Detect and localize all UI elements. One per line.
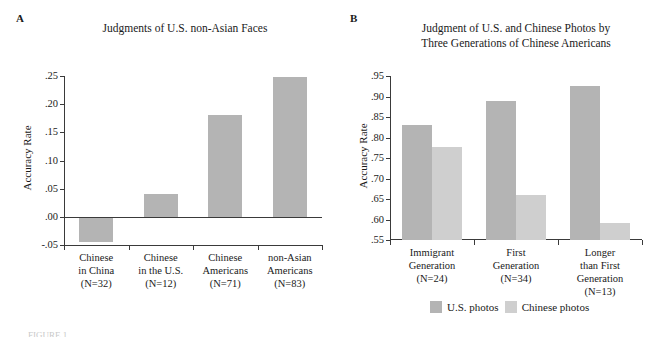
panel-b-bar [600,223,630,240]
legend-swatch-chinese-photos [505,301,517,313]
panel-b: B Judgment of U.S. and Chinese Photos by… [334,0,667,337]
panel-b-plot-area: .95.90.85.80.75.70.65.60.55 [390,76,642,240]
panel-a-x-axis-line [64,245,322,246]
panel-a-bars [64,76,322,245]
panel-b-x-tick-mark [558,240,559,245]
figure-footer-fragment: FIGURE 1 [28,330,67,337]
panel-b-bar [570,86,600,240]
panel-b-legend: U.S. photos Chinese photos [430,301,589,313]
legend-swatch-us-photos [430,301,442,313]
panel-b-y-axis-label: Accuracy Rate [357,111,369,201]
figure-two-panel-bar-charts: A Judgments of U.S. non-Asian Faces Accu… [0,0,667,337]
panel-a-bar [79,217,113,242]
panel-b-title: Judgment of U.S. and Chinese Photos by T… [376,21,656,51]
panel-a-letter: A [16,12,24,24]
panel-b-bar [486,101,516,240]
panel-b-x-category-label: First Generation (N=34) [468,246,564,285]
panel-a-bar [144,194,178,217]
panel-b-bar [516,195,546,240]
panel-b-bar [432,147,462,240]
panel-a-x-tick-mark [322,245,323,250]
legend-item-chinese-photos: Chinese photos [505,301,590,313]
legend-item-us-photos: U.S. photos [430,301,499,313]
panel-a: A Judgments of U.S. non-Asian Faces Accu… [0,0,334,337]
panel-b-bar [402,125,432,240]
panel-a-plot-area: .25.20.15.10.05.00-.05 [64,76,322,245]
panel-a-bar [208,115,242,216]
panel-a-bar [273,77,307,217]
panel-b-x-tick-mark [474,240,475,245]
panel-b-x-category-label: Immigrant Generation (N=24) [384,246,480,285]
panel-a-zero-baseline [64,217,322,218]
legend-label-us-photos: U.S. photos [447,301,499,313]
panel-b-bars [390,76,642,240]
legend-label-chinese-photos: Chinese photos [522,301,590,313]
panel-b-x-tick-mark [642,240,643,245]
panel-b-x-tick-mark [390,240,391,245]
panel-a-y-axis-label: Accuracy Rate [21,113,33,203]
panel-b-letter: B [350,12,358,24]
panel-b-x-category-label: Longer than First Generation (N=13) [552,246,648,298]
panel-a-title: Judgments of U.S. non-Asian Faces [50,21,320,36]
panel-a-x-category-label: non-Asian Americans (N=83) [245,251,335,290]
